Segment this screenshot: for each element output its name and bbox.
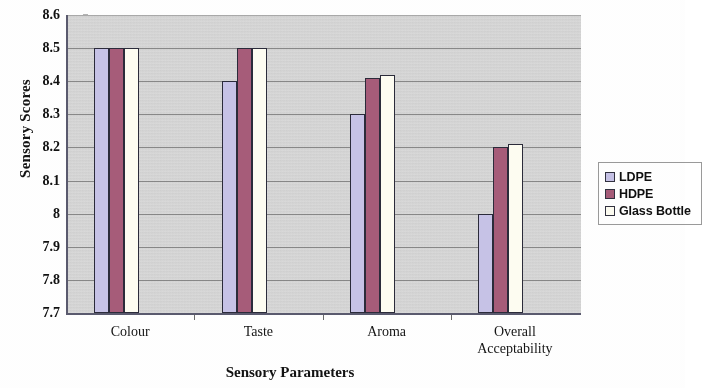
legend-swatch-glass-bottle bbox=[605, 206, 615, 216]
y-axis-tick-labels: 8.68.58.48.38.28.187.97.87.7 bbox=[22, 0, 60, 388]
y-axis-tick-label: 7.7 bbox=[22, 305, 60, 321]
category-label-line1: Aroma bbox=[323, 323, 451, 340]
category-label-line2: Acceptability bbox=[451, 340, 579, 357]
chart-legend: LDPE HDPE Glass Bottle bbox=[598, 162, 702, 225]
bar-glass-bottle-overall-acceptability bbox=[508, 144, 523, 313]
category-label-line1: Colour bbox=[66, 323, 194, 340]
legend-item-glass-bottle: Glass Bottle bbox=[605, 202, 697, 219]
category-label-line1: Taste bbox=[194, 323, 322, 340]
legend-label-glass-bottle: Glass Bottle bbox=[619, 204, 691, 218]
y-axis-tick-label: 8.2 bbox=[22, 139, 60, 155]
bar-hdpe-overall-acceptability bbox=[493, 147, 508, 313]
bar-hdpe-colour bbox=[109, 48, 124, 313]
bar-ldpe-taste bbox=[222, 81, 237, 313]
y-axis-tick-label: 8.4 bbox=[22, 73, 60, 89]
legend-swatch-hdpe bbox=[605, 189, 615, 199]
bar-hdpe-aroma bbox=[365, 78, 380, 313]
plot-top-border bbox=[68, 15, 581, 16]
y-axis-tick-label: 8.6 bbox=[22, 7, 60, 23]
x-axis-tick-mark bbox=[323, 315, 324, 320]
gridline bbox=[68, 48, 581, 49]
bar-ldpe-aroma bbox=[350, 114, 365, 313]
bar-glass-bottle-colour bbox=[124, 48, 139, 313]
legend-label-hdpe: HDPE bbox=[619, 187, 653, 201]
gridline bbox=[68, 114, 581, 115]
category-label-line1: Overall bbox=[451, 323, 579, 340]
y-axis-tick-label: 7.8 bbox=[22, 272, 60, 288]
x-axis-category-label: OverallAcceptability bbox=[451, 323, 579, 357]
x-axis-category-label: Colour bbox=[66, 323, 194, 340]
bar-ldpe-colour bbox=[94, 48, 109, 313]
bar-hdpe-taste bbox=[237, 48, 252, 313]
gridline bbox=[68, 81, 581, 82]
y-axis-tick-label: 7.9 bbox=[22, 239, 60, 255]
x-axis-tick-mark bbox=[451, 315, 452, 320]
y-axis-tick-label: 8 bbox=[22, 206, 60, 222]
y-axis-tick-label: 8.1 bbox=[22, 173, 60, 189]
legend-item-ldpe: LDPE bbox=[605, 168, 697, 185]
legend-swatch-ldpe bbox=[605, 172, 615, 182]
y-axis-tick-label: 8.5 bbox=[22, 40, 60, 56]
plot-area bbox=[66, 15, 581, 315]
x-axis-tick-mark bbox=[194, 315, 195, 320]
x-axis-category-label: Taste bbox=[194, 323, 322, 340]
legend-item-hdpe: HDPE bbox=[605, 185, 697, 202]
x-axis-title: Sensory Parameters bbox=[0, 364, 580, 381]
bar-glass-bottle-taste bbox=[252, 48, 267, 313]
bar-glass-bottle-aroma bbox=[380, 75, 395, 313]
bar-ldpe-overall-acceptability bbox=[478, 214, 493, 313]
legend-label-ldpe: LDPE bbox=[619, 170, 652, 184]
x-axis-category-label: Aroma bbox=[323, 323, 451, 340]
y-axis-tick-label: 8.3 bbox=[22, 106, 60, 122]
